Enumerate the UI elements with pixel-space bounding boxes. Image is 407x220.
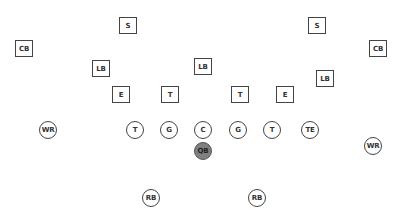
defense-player-e: E <box>276 86 294 103</box>
offense-player-g: G <box>229 121 247 139</box>
offense-player-t: T <box>263 121 281 139</box>
offense-player-qb: QB <box>194 142 212 160</box>
defense-player-lb: LB <box>316 70 334 87</box>
formation-diagram: SSCBCBLBLBLBETTE WRTGCGTTEQBWRRBRB <box>0 0 407 220</box>
defense-player-s: S <box>119 17 137 34</box>
defense-player-e: E <box>112 86 130 103</box>
defense-player-cb: CB <box>15 40 33 57</box>
defense-player-lb: LB <box>92 60 110 77</box>
defense-player-s: S <box>308 17 326 34</box>
defense-player-t: T <box>231 86 249 103</box>
defense-player-cb: CB <box>369 40 387 57</box>
offense-player-wr: WR <box>364 137 382 155</box>
offense-player-g: G <box>160 121 178 139</box>
offense-player-c: C <box>194 121 212 139</box>
defense-player-t: T <box>161 86 179 103</box>
offense-player-wr: WR <box>39 121 57 139</box>
defense-player-lb: LB <box>194 58 212 75</box>
offense-player-rb: RB <box>142 189 160 207</box>
offense-player-t: T <box>126 121 144 139</box>
offense-player-rb: RB <box>248 189 266 207</box>
offense-player-te: TE <box>301 121 319 139</box>
